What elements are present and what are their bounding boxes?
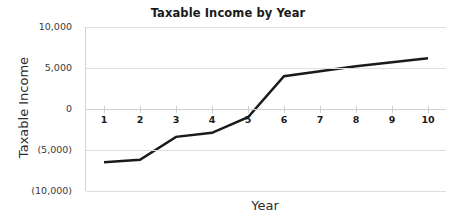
plot-area: 12345678910: [85, 27, 446, 191]
x-tick-mark: [212, 106, 213, 113]
x-tick-mark: [140, 106, 141, 113]
y-tick-label: 0: [0, 103, 80, 114]
x-tick-label: 6: [271, 114, 297, 125]
y-tick-label: 10,000: [0, 21, 80, 32]
x-tick-label: 4: [199, 114, 225, 125]
x-tick-mark: [428, 106, 429, 113]
x-tick-label: 1: [91, 114, 117, 125]
y-tick-label: 5,000: [0, 62, 80, 73]
x-tick-mark: [392, 106, 393, 113]
x-tick-mark: [320, 106, 321, 113]
x-axis-title: Year: [85, 198, 445, 213]
x-tick-label: 2: [127, 114, 153, 125]
x-tick-mark: [248, 106, 249, 113]
y-tick-label: (5,000): [0, 144, 80, 155]
x-tick-mark: [176, 106, 177, 113]
gridline-y--10000: [86, 191, 446, 192]
x-tick-label: 5: [235, 114, 261, 125]
y-tick-label: (10,000): [0, 185, 80, 196]
gridline-y-10000: [86, 27, 446, 28]
x-tick-label: 10: [415, 114, 441, 125]
x-tick-mark: [356, 106, 357, 113]
gridline-y-5000: [86, 68, 446, 69]
chart-container: Taxable Income by Year Taxable Income 10…: [0, 0, 456, 222]
x-tick-mark: [104, 106, 105, 113]
y-axis-tick-labels: 10,0005,0000(5,000)(10,000): [0, 0, 80, 222]
gridline-y--5000: [86, 150, 446, 151]
x-tick-label: 3: [163, 114, 189, 125]
x-tick-label: 8: [343, 114, 369, 125]
x-tick-label: 9: [379, 114, 405, 125]
x-tick-label: 7: [307, 114, 333, 125]
x-tick-mark: [284, 106, 285, 113]
